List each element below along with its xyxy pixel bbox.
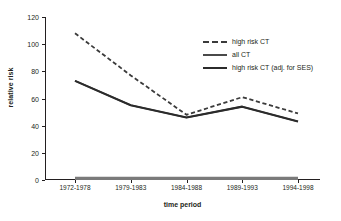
y-axis-tick-mark [42, 17, 45, 18]
legend-item: high risk CT [203, 37, 313, 46]
x-axis-tick-mark [298, 180, 299, 183]
y-axis-tick-label: 20 [31, 149, 39, 156]
x-axis-tick-label: 1989-1993 [227, 184, 258, 191]
legend-item: high risk CT (adj. for SES) [203, 63, 313, 72]
y-axis-tick-mark [42, 71, 45, 72]
x-axis-title: time period [45, 201, 320, 208]
y-axis-tick-label: 60 [31, 95, 39, 102]
y-axis-tick-label: 120 [27, 14, 39, 21]
x-axis-tick-mark [187, 180, 188, 183]
chart-legend: high risk CTall CThigh risk CT (adj. for… [203, 37, 313, 72]
y-axis-tick-mark [42, 180, 45, 181]
solid-thin-line-swatch [203, 50, 227, 59]
y-axis-tick-mark [42, 99, 45, 100]
legend-item-label: high risk CT (adj. for SES) [232, 63, 313, 72]
y-axis-tick-label: 100 [27, 41, 39, 48]
y-axis-tick-label: 0 [35, 177, 39, 184]
x-axis-tick-label: 1979-1983 [115, 184, 146, 191]
y-axis-tick-mark [42, 126, 45, 127]
line-chart: relative risk 020406080100120 1972-19781… [0, 0, 341, 221]
x-axis-tick-labels: 1972-19781979-19831984-19881989-19931994… [45, 184, 320, 196]
y-axis-tick-label: 40 [31, 122, 39, 129]
y-axis-tick-mark [42, 153, 45, 154]
y-axis-tick-labels: 020406080100120 [16, 10, 42, 180]
y-axis-tick-mark [42, 44, 45, 45]
x-axis-tick-label: 1994-1998 [282, 184, 313, 191]
x-axis-tick-mark [242, 180, 243, 183]
y-axis-tick-label: 80 [31, 68, 39, 75]
solid-thick-line-swatch [203, 63, 227, 72]
legend-item-label: high risk CT [232, 37, 269, 46]
x-axis-tick-mark [75, 180, 76, 183]
x-axis-tick-label: 1984-1988 [171, 184, 202, 191]
x-axis-tick-label: 1972-1978 [59, 184, 90, 191]
dashed-line-swatch [203, 37, 227, 46]
legend-item: all CT [203, 50, 313, 59]
x-axis-tick-mark [131, 180, 132, 183]
y-axis-title-text: relative risk [7, 67, 14, 107]
legend-item-label: all CT [232, 50, 250, 59]
